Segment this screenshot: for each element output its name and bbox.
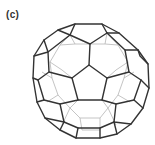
buckyball-diagram [0, 0, 155, 145]
front-edges [33, 24, 149, 138]
back-edges [42, 33, 134, 130]
